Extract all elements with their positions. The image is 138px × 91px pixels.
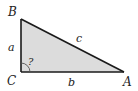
vertex-label-c: C [7, 74, 16, 88]
side-label-a: a [8, 41, 15, 54]
side-label-b: b [68, 76, 75, 89]
angle-unknown-label: ? [28, 56, 34, 67]
side-label-c: c [76, 32, 82, 45]
vertex-label-a: A [122, 75, 132, 89]
right-triangle-diagram: B C A a b c ? [0, 0, 138, 91]
vertex-label-b: B [7, 5, 17, 19]
